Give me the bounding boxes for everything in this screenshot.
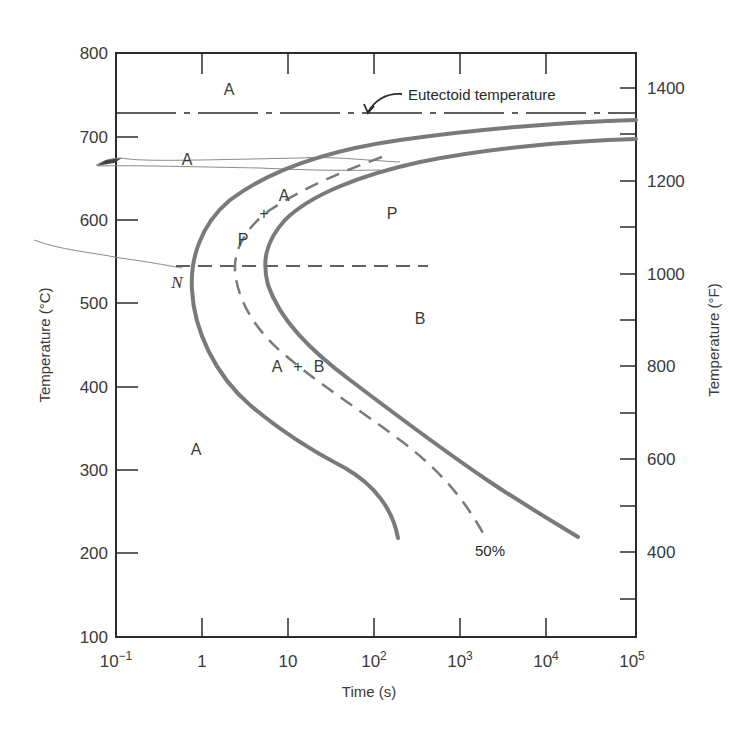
label-austenite-top: A bbox=[224, 81, 235, 98]
y-axis-title-left: Temperature (°C) bbox=[36, 287, 53, 402]
y-ticks-left bbox=[116, 137, 138, 553]
y-tick-1000F: 1000 bbox=[647, 265, 685, 284]
label-ab-plus: + bbox=[293, 358, 302, 375]
label-ab-b: B bbox=[314, 358, 325, 375]
label-bainite: B bbox=[415, 310, 426, 327]
y-tick-700: 700 bbox=[80, 128, 108, 147]
x-tick-100000: 105 bbox=[619, 649, 645, 671]
y-tick-1400F: 1400 bbox=[647, 79, 685, 98]
finish-curve bbox=[265, 139, 636, 537]
y-tick-labels-left: 800 700 600 500 400 300 200 100 bbox=[80, 44, 108, 647]
y-tick-400F: 400 bbox=[647, 543, 675, 562]
y-ticks-right bbox=[620, 88, 636, 599]
y-tick-400: 400 bbox=[80, 378, 108, 397]
label-nose: N bbox=[170, 273, 184, 292]
label-pearlite-inner: P bbox=[238, 231, 249, 248]
x-tick-1000: 103 bbox=[447, 649, 473, 671]
label-austenite-low: A bbox=[191, 441, 202, 458]
label-plus-inner: + bbox=[259, 205, 268, 222]
label-austenite-inner: A bbox=[279, 187, 290, 204]
y-tick-800: 800 bbox=[80, 44, 108, 63]
x-tick-100: 102 bbox=[361, 649, 387, 671]
eutectoid-arrow-icon bbox=[364, 94, 402, 113]
ttt-diagram: 800 700 600 500 400 300 200 100 1400 120… bbox=[0, 0, 747, 729]
y-tick-600: 600 bbox=[80, 211, 108, 230]
x-tick-1: 1 bbox=[197, 652, 206, 671]
x-tick-10: 10 bbox=[279, 652, 298, 671]
label-ab-a: A bbox=[272, 358, 283, 375]
y-tick-100: 100 bbox=[80, 628, 108, 647]
eutectoid-label: Eutectoid temperature bbox=[408, 86, 556, 103]
y-tick-800F: 800 bbox=[647, 357, 675, 376]
plot-frame bbox=[116, 53, 636, 637]
x-ticks-bottom bbox=[202, 618, 546, 637]
y-tick-600F: 600 bbox=[647, 450, 675, 469]
x-tick-labels: 10−1 1 10 102 103 104 105 bbox=[100, 649, 645, 671]
label-pearlite: P bbox=[387, 205, 398, 222]
x-ticks-top bbox=[202, 53, 546, 74]
label-fifty-percent: 50% bbox=[475, 542, 505, 559]
x-tick-0.1: 10−1 bbox=[100, 649, 133, 671]
label-austenite-stable: A bbox=[182, 151, 193, 168]
y-axis-title-right: Temperature (°F) bbox=[705, 283, 722, 397]
y-tick-1200F: 1200 bbox=[647, 172, 685, 191]
y-tick-200: 200 bbox=[80, 544, 108, 563]
x-axis-title: Time (s) bbox=[342, 683, 396, 700]
y-tick-500: 500 bbox=[80, 294, 108, 313]
x-tick-10000: 104 bbox=[533, 649, 559, 671]
y-tick-300: 300 bbox=[80, 461, 108, 480]
y-tick-labels-right: 1400 1200 1000 800 600 400 bbox=[647, 79, 685, 562]
